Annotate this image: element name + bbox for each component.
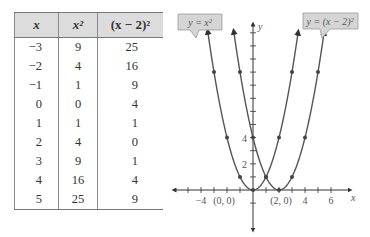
curve-x-minus-2-squared [234, 31, 324, 190]
data-point [290, 70, 294, 74]
x-tick-label: 4 [303, 195, 308, 206]
callout-y-equals-x-minus-2-squared: y = (x − 2)² [303, 13, 358, 38]
data-point [303, 136, 307, 140]
callout-right-text: y = (x − 2)² [305, 16, 354, 28]
axis-labels: −44624(0, 0)(2, 0)xy [196, 21, 356, 207]
data-point [290, 175, 294, 179]
callout-y-equals-x-squared: y = x² [178, 14, 222, 38]
x-tick-label: 6 [329, 195, 334, 206]
y-tick-label: 2 [242, 159, 247, 170]
x-axis-label: x [350, 192, 356, 203]
data-point [316, 70, 320, 74]
y-axis-label: y [257, 21, 263, 32]
curves [208, 31, 324, 192]
data-point [238, 175, 242, 179]
vertex-label-origin: (0, 0) [213, 195, 235, 207]
parabola-graph: −44624(0, 0)(2, 0)xy y = x² y = (x − 2)² [0, 0, 370, 237]
data-point [277, 136, 281, 140]
data-point [251, 136, 255, 140]
data-point [212, 70, 216, 74]
y-tick-label: 4 [242, 133, 247, 144]
x-tick-label: −4 [196, 195, 207, 206]
vertex-label-2-0: (2, 0) [270, 195, 292, 207]
data-point [238, 70, 242, 74]
data-point [264, 175, 268, 179]
data-point [251, 188, 255, 192]
callout-left-text: y = x² [187, 17, 213, 28]
data-point [277, 188, 281, 192]
data-point [225, 136, 229, 140]
